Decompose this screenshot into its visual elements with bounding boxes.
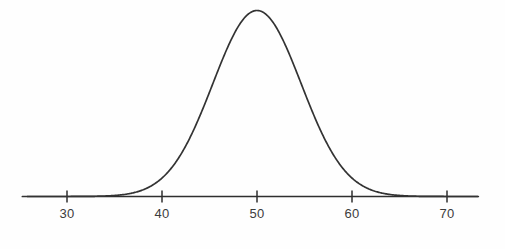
normal-distribution-curve [22, 11, 478, 197]
x-tick-label-50: 50 [250, 206, 265, 221]
x-tick-label-70: 70 [440, 206, 455, 221]
x-tick-label-60: 60 [345, 206, 360, 221]
chart-canvas: 30 40 50 60 70 [0, 0, 505, 249]
x-tick-label-30: 30 [60, 206, 75, 221]
x-tick-label-40: 40 [155, 206, 170, 221]
